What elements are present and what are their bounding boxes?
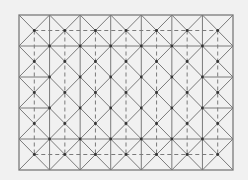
crease-node — [94, 91, 97, 94]
crease-node — [63, 60, 66, 63]
crease-node — [216, 91, 219, 94]
crease-node — [216, 60, 219, 63]
crease-node — [33, 153, 36, 156]
crease-node — [170, 76, 173, 79]
crease-node — [109, 138, 112, 141]
crease-node — [125, 60, 128, 63]
crease-node — [186, 153, 189, 156]
crease-node — [94, 60, 97, 63]
crease-node — [140, 138, 143, 141]
crease-node — [140, 45, 143, 48]
crease-node — [63, 153, 66, 156]
crease-node — [33, 60, 36, 63]
crease-node — [216, 122, 219, 125]
crease-node — [109, 76, 112, 79]
crease-node — [216, 153, 219, 156]
crease-node — [216, 29, 219, 32]
crease-node — [155, 153, 158, 156]
crease-pattern-svg — [0, 0, 248, 180]
crease-node — [186, 60, 189, 63]
crease-node — [155, 60, 158, 63]
crease-node — [125, 153, 128, 156]
crease-node — [79, 107, 82, 110]
crease-node — [155, 29, 158, 32]
crease-node — [94, 153, 97, 156]
crease-node — [186, 91, 189, 94]
crease-node — [33, 29, 36, 32]
crease-node — [170, 107, 173, 110]
crease-node — [79, 138, 82, 141]
crease-node — [170, 45, 173, 48]
crease-node — [48, 138, 51, 141]
crease-node — [201, 107, 204, 110]
crease-node — [125, 29, 128, 32]
crease-node — [109, 45, 112, 48]
crease-node — [33, 122, 36, 125]
crease-node — [201, 138, 204, 141]
crease-node — [48, 107, 51, 110]
crease-node — [48, 76, 51, 79]
crease-node — [186, 122, 189, 125]
crease-node — [140, 76, 143, 79]
crease-pattern-diagram — [0, 0, 248, 180]
crease-node — [63, 122, 66, 125]
crease-node — [201, 45, 204, 48]
crease-node — [79, 45, 82, 48]
crease-node — [33, 91, 36, 94]
crease-node — [94, 122, 97, 125]
crease-node — [125, 122, 128, 125]
crease-node — [48, 45, 51, 48]
crease-node — [170, 138, 173, 141]
crease-node — [140, 107, 143, 110]
crease-node — [125, 91, 128, 94]
crease-node — [94, 29, 97, 32]
crease-node — [109, 107, 112, 110]
crease-node — [155, 91, 158, 94]
crease-node — [186, 29, 189, 32]
crease-node — [155, 122, 158, 125]
crease-node — [63, 29, 66, 32]
crease-node — [63, 91, 66, 94]
crease-node — [79, 76, 82, 79]
crease-node — [201, 76, 204, 79]
